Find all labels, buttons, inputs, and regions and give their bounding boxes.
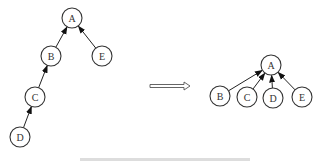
left-edge-e-to-a [79, 26, 96, 48]
node-label: C [32, 92, 39, 103]
transform-arrow-icon [150, 82, 190, 90]
node-label: D [269, 93, 276, 104]
left-node-d: D [10, 127, 30, 147]
node-label: A [267, 60, 275, 71]
right-tree-after-compression: ABCDE [210, 55, 312, 108]
diagram-canvas: ABECD ABCDE [0, 0, 327, 161]
figure-caption-clipped [80, 158, 250, 161]
right-edge-d-to-a [272, 75, 273, 88]
right-node-e: E [292, 87, 312, 107]
node-label: E [299, 92, 305, 103]
node-label: D [16, 132, 23, 143]
right-node-b: B [210, 86, 230, 106]
left-tree-before-compression: ABECD [10, 8, 112, 147]
node-label: C [244, 92, 251, 103]
right-edge-c-to-a [253, 73, 265, 89]
left-node-b: B [41, 46, 61, 66]
node-label: B [217, 91, 224, 102]
node-label: B [48, 51, 55, 62]
left-node-a: A [62, 8, 82, 28]
left-edge-c-to-b [39, 66, 48, 88]
left-edge-b-to-a [56, 27, 67, 47]
right-node-a: A [261, 55, 281, 75]
right-arrow-icon [150, 82, 190, 90]
left-node-e: E [92, 46, 112, 66]
left-node-c: C [25, 87, 45, 107]
right-node-d: D [263, 88, 283, 108]
left-edge-d-to-c [24, 107, 32, 128]
right-node-c: C [237, 87, 257, 107]
node-label: A [68, 13, 76, 24]
right-edge-e-to-a [278, 73, 295, 90]
node-label: E [99, 51, 105, 62]
